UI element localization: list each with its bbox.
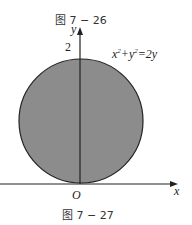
x-axis-label: x [174,184,179,199]
shaded-disk [19,59,143,183]
figure-caption-bottom: 图 7 − 27 [62,206,114,222]
diagram-canvas [0,0,192,225]
origin-label: O [72,188,81,203]
y-axis-label: y [71,22,76,37]
y-axis-arrow-icon [77,27,83,35]
y-tick-label: 2 [65,40,71,55]
figure-caption-top: 图 7 − 26 [55,11,107,27]
equation-label: x2+y2=2y [112,47,157,62]
